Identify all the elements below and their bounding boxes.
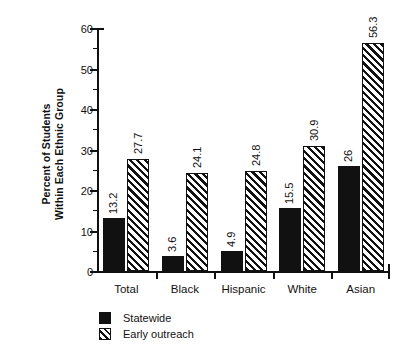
y-axis-top-cap: [97, 28, 104, 30]
y-axis-title: Percent of Students Within Each Ethnic G…: [40, 39, 66, 269]
legend-swatch-hatch-icon: [99, 328, 111, 340]
y-tick-minor: [93, 170, 97, 171]
bar-early-outreach: 30.9: [303, 146, 325, 271]
bar-value-label: 13.2: [107, 192, 119, 213]
bar-early-outreach: 24.1: [186, 173, 208, 271]
x-tick-mark: [273, 271, 275, 279]
legend-item-early-outreach: Early outreach: [99, 326, 194, 342]
y-tick-label: 50: [81, 64, 93, 76]
x-category-label: Asian: [346, 283, 375, 295]
bar-statewide: 4.9: [221, 251, 243, 271]
y-tick-minor: [93, 251, 97, 252]
x-category-label: Hispanic: [221, 283, 265, 295]
y-tick-label: 40: [81, 104, 93, 116]
bar-statewide: 15.5: [279, 208, 301, 271]
y-tick-label: 0: [87, 266, 93, 278]
y-tick-label: 30: [81, 145, 93, 157]
y-tick-minor: [93, 129, 97, 130]
bar-value-label: 26: [342, 149, 354, 161]
bar-early-outreach: 24.8: [245, 171, 267, 271]
bar-value-label: 4.9: [225, 232, 237, 247]
x-tick-mark: [156, 271, 158, 279]
x-category-label: Total: [114, 283, 138, 295]
y-tick-label: 60: [81, 23, 93, 35]
plot-area: 0102030405060 13.227.73.624.14.924.815.5…: [97, 28, 390, 271]
legend-item-statewide: Statewide: [99, 310, 194, 326]
legend: Statewide Early outreach: [99, 310, 194, 342]
legend-label-early-outreach: Early outreach: [123, 328, 194, 340]
bar-statewide: 26: [338, 166, 360, 271]
y-axis-title-line-1: Percent of Students: [40, 39, 53, 269]
bar-value-label: 15.5: [283, 183, 295, 204]
bar-chart: Percent of Students Within Each Ethnic G…: [0, 0, 410, 352]
y-axis-title-line-2: Within Each Ethnic Group: [53, 39, 66, 269]
x-tick-mark: [331, 271, 333, 279]
bar-value-label: 24.1: [191, 147, 203, 168]
x-category-label: Black: [171, 283, 199, 295]
y-tick-minor: [93, 210, 97, 211]
bar-statewide: 13.2: [103, 218, 125, 271]
bar-statewide: 3.6: [162, 256, 184, 271]
bar-value-label: 30.9: [308, 119, 320, 140]
bar-value-label: 56.3: [367, 17, 379, 38]
y-tick-label: 10: [81, 226, 93, 238]
x-tick-mark: [388, 271, 390, 279]
bar-early-outreach: 56.3: [362, 43, 384, 271]
bar-value-label: 3.6: [166, 237, 178, 252]
legend-swatch-solid-icon: [99, 312, 111, 324]
x-tick-mark: [214, 271, 216, 279]
bar-value-label: 27.7: [132, 132, 144, 153]
legend-label-statewide: Statewide: [123, 312, 171, 324]
y-tick-minor: [93, 89, 97, 90]
y-tick-label: 20: [81, 185, 93, 197]
y-tick-minor: [93, 48, 97, 49]
bar-early-outreach: 27.7: [127, 159, 149, 271]
y-axis-line: [97, 28, 99, 272]
x-category-label: White: [287, 283, 316, 295]
bar-value-label: 24.8: [250, 144, 262, 165]
x-axis-line: [97, 271, 390, 273]
